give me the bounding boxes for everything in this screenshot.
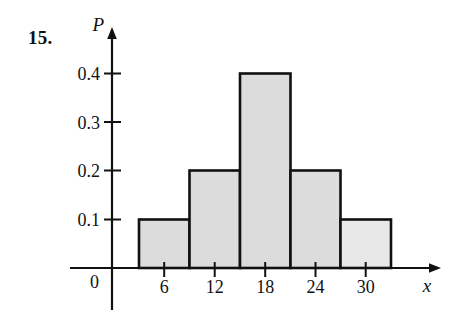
histogram-figure: 15.	[0, 0, 468, 318]
y-tick-label-0.3: 0.3	[78, 113, 101, 133]
bar-bin-5	[341, 220, 392, 269]
y-tick-labels: 0.4 0.3 0.2 0.1	[78, 64, 101, 230]
y-tick-label-0.4: 0.4	[78, 64, 101, 84]
bar-bin-3	[240, 74, 291, 269]
bar-bin-2	[190, 171, 241, 269]
bars-group	[139, 74, 391, 269]
bar-bin-1	[139, 220, 190, 269]
histogram-plot: 0.4 0.3 0.2 0.1 0 6 12 18 24 30 P x	[0, 0, 468, 318]
x-tick-label-6: 6	[160, 277, 169, 297]
x-tick-label-30: 30	[357, 277, 375, 297]
x-tick-label-24: 24	[307, 277, 325, 297]
y-tick-label-0.2: 0.2	[78, 161, 101, 181]
x-axis-arrowhead	[429, 263, 441, 273]
y-axis-arrowhead	[107, 27, 117, 39]
x-tick-label-12: 12	[206, 277, 224, 297]
bar-bin-4	[291, 171, 341, 269]
origin-label: 0	[90, 272, 99, 292]
y-axis-title: P	[91, 14, 104, 35]
x-tick-label-18: 18	[256, 277, 274, 297]
x-tick-labels: 6 12 18 24 30	[160, 277, 375, 297]
y-tick-label-0.1: 0.1	[78, 210, 101, 230]
x-axis-title: x	[422, 275, 432, 296]
